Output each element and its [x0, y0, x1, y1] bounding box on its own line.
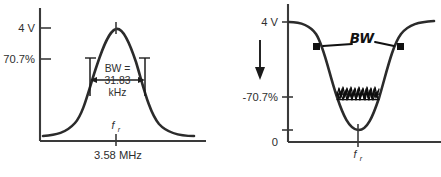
center-freq-subscript: r [118, 125, 121, 134]
bw-hand-label: BW [350, 30, 376, 46]
chart-bandpass-response: 4 V 70.7% BW = 31.83 kHz f r [0, 0, 221, 177]
y-label-zero: 0 [272, 136, 278, 148]
y-label-half-power: -70.7% [243, 91, 278, 103]
x-axis-label: 3.58 MHz [94, 149, 142, 161]
center-freq-label: f [112, 119, 116, 131]
center-freq-subscript: r [360, 154, 363, 163]
noise-scribble-band [337, 87, 379, 100]
bw-leader-left [323, 44, 352, 46]
notch-svg: 4 V -70.7% 0 BW [221, 0, 441, 177]
chart-notch-response: 4 V -70.7% 0 BW [221, 0, 441, 177]
y-label-half-power: 70.7% [3, 53, 35, 65]
center-freq-label: f [354, 148, 358, 160]
bw-label-line3: kHz [109, 87, 127, 98]
down-arrow-icon [255, 67, 265, 80]
bw-label-line2: 31.83 [104, 75, 130, 86]
bandpass-svg: 4 V 70.7% BW = 31.83 kHz f r [0, 0, 221, 177]
y-label-peak: 4 V [261, 16, 278, 28]
bw-marker-left [313, 43, 320, 50]
bw-label-line1: BW = [105, 63, 131, 74]
y-label-peak: 4 V [18, 22, 35, 34]
figure-root: 4 V 70.7% BW = 31.83 kHz f r [0, 0, 441, 177]
bw-marker-right [397, 43, 404, 50]
bw-leader-right [375, 42, 394, 46]
